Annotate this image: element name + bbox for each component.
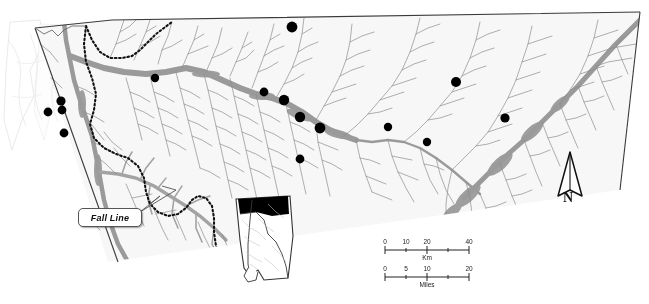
site-dot <box>60 129 69 138</box>
scale-km-tick-0: 0 <box>383 238 387 245</box>
scale-miles-tick-5: 5 <box>404 265 408 272</box>
site-dot <box>260 88 269 97</box>
site-dot <box>279 95 289 105</box>
map-canvas <box>0 0 649 304</box>
scale-km-tick-20: 20 <box>423 238 430 245</box>
site-dot <box>287 22 298 33</box>
scale-km-tick-10: 10 <box>402 238 409 245</box>
site-dot <box>315 123 326 134</box>
scale-miles-tick-20: 20 <box>465 265 472 272</box>
map-figure: Fall Line N 0 10 20 40 Km 0 5 10 20 Mile… <box>0 0 649 304</box>
alabama-state-inset <box>236 196 293 282</box>
scale-bar-km <box>385 246 469 254</box>
scale-km-tick-40: 40 <box>465 238 472 245</box>
scale-km-unit: Km <box>422 254 432 261</box>
site-dot <box>423 138 431 146</box>
site-dot <box>295 112 305 122</box>
north-arrow-label: N <box>563 190 573 206</box>
site-dot <box>451 77 461 87</box>
site-dot <box>44 108 53 117</box>
site-dot <box>384 123 392 131</box>
site-dot <box>296 155 305 164</box>
scale-bar-miles <box>385 273 469 281</box>
fall-line-label: Fall Line <box>91 213 129 223</box>
scale-miles-tick-10: 10 <box>423 265 430 272</box>
site-dot <box>56 96 65 105</box>
site-dot <box>58 106 67 115</box>
site-dot <box>500 113 509 122</box>
fall-line-callout: Fall Line <box>78 208 142 227</box>
study-area-land <box>0 0 649 304</box>
scale-miles-unit: Miles <box>419 281 434 288</box>
site-dot <box>151 74 159 82</box>
scale-miles-tick-0: 0 <box>383 265 387 272</box>
